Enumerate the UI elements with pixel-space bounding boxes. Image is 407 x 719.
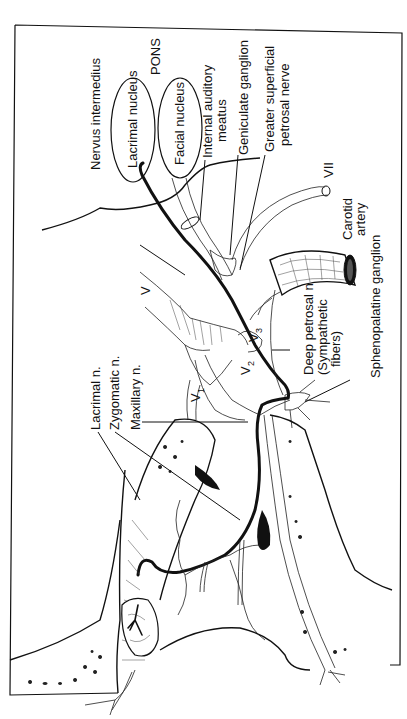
label-greater-superficial-petrosal: Greater superficial petrosal nerve xyxy=(262,46,292,152)
svg-text:artery: artery xyxy=(353,202,368,236)
svg-text:Facial nucleus: Facial nucleus xyxy=(172,81,187,165)
facial-nerve-trunk xyxy=(172,178,222,280)
label-v: V xyxy=(138,286,153,295)
parasympathetic-pathway xyxy=(140,163,288,398)
svg-text:V: V xyxy=(246,333,261,342)
svg-text:V: V xyxy=(238,366,253,375)
palatine-nerve-tuft xyxy=(320,670,345,685)
svg-text:Internal auditory: Internal auditory xyxy=(200,64,215,158)
lateral-bone-porosity xyxy=(28,650,102,685)
label-lacrimal-n: Lacrimal n. xyxy=(88,366,103,430)
svg-text:meatus: meatus xyxy=(214,99,229,142)
pterygoid-outline xyxy=(270,415,392,590)
svg-text:Deep petrosal n: Deep petrosal n xyxy=(301,283,316,375)
label-lacrimal-nucleus: Lacrimal nucleus xyxy=(125,70,140,168)
label-nervus-intermedius: Nervus intermedius xyxy=(88,58,103,170)
svg-text:Zygomatic n.: Zygomatic n. xyxy=(107,356,122,430)
label-v1: V 1 xyxy=(188,388,206,402)
svg-text:Sphenopalatine ganglion: Sphenopalatine ganglion xyxy=(368,235,383,378)
label-pons: PONS xyxy=(148,38,163,75)
sphenopalatine-ganglion xyxy=(285,380,330,428)
svg-text:Lacrimal n.: Lacrimal n. xyxy=(88,366,103,430)
orbit-outline-b xyxy=(117,470,125,693)
svg-text:V: V xyxy=(138,286,153,295)
palatine-nerves xyxy=(264,415,335,670)
lateral-bone-outline xyxy=(10,520,120,660)
dark-mass xyxy=(257,510,270,550)
label-sphenopalatine-ganglion: Sphenopalatine ganglion xyxy=(368,235,383,378)
svg-text:Greater superficial: Greater superficial xyxy=(262,46,277,152)
svg-text:Maxillary n.: Maxillary n. xyxy=(128,364,143,430)
svg-text:petrosal nerve: petrosal nerve xyxy=(277,64,292,146)
nerve-vii-cut-end xyxy=(322,186,330,196)
deep-petrosal-fibers-b xyxy=(250,292,280,320)
facial-nerve-trunk-b xyxy=(186,178,232,275)
right-bone-porosity xyxy=(289,440,347,654)
svg-text:VII: VII xyxy=(321,162,336,178)
bone-porosity xyxy=(158,440,184,473)
label-geniculate-ganglion: Geniculate ganglion xyxy=(236,40,251,155)
svg-text:1: 1 xyxy=(196,388,206,393)
svg-text:fibers): fibers) xyxy=(328,331,343,367)
label-facial-nucleus: Facial nucleus xyxy=(172,81,187,165)
label-maxillary-n: Maxillary n. xyxy=(128,364,143,430)
svg-text:2: 2 xyxy=(246,361,256,366)
label-zygomatic-n: Zygomatic n. xyxy=(107,356,122,430)
label-carotid-artery: Carotid artery xyxy=(340,198,368,240)
label-deep-petrosal: Deep petrosal n (Sympathetic fibers) xyxy=(301,283,343,375)
svg-text:Geniculate ganglion: Geniculate ganglion xyxy=(236,40,251,155)
maxilla-outline xyxy=(160,628,310,670)
svg-text:V: V xyxy=(188,393,203,402)
label-internal-auditory-meatus: Internal auditory meatus xyxy=(200,64,229,158)
lacrimal-gland xyxy=(122,598,159,656)
anatomical-diagram: Nervus intermedius PONS Lacrimal nucleus… xyxy=(0,0,407,719)
lower-nerve-tuft xyxy=(85,670,135,715)
svg-text:Nervus intermedius: Nervus intermedius xyxy=(88,58,103,170)
label-vii: VII xyxy=(321,162,336,178)
svg-text:3: 3 xyxy=(254,328,264,333)
svg-text:Lacrimal nucleus: Lacrimal nucleus xyxy=(125,70,140,168)
label-v2: V 2 xyxy=(238,361,256,375)
small-descending-nerves xyxy=(200,540,244,605)
svg-text:PONS: PONS xyxy=(148,38,163,75)
